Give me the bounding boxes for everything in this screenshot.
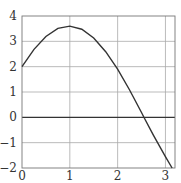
- grid: [22, 16, 175, 168]
- y-tick-label: −2: [0, 161, 17, 175]
- x-tick-labels: 0123: [18, 169, 169, 183]
- y-tick-label: 2: [9, 60, 17, 74]
- y-tick-label: 3: [9, 34, 17, 48]
- x-tick-label: 3: [162, 169, 170, 183]
- x-tick-label: 0: [18, 169, 26, 183]
- line-chart: 0123 43210−1−2: [0, 0, 181, 183]
- x-tick-label: 1: [66, 169, 74, 183]
- data-series-line: [22, 26, 172, 168]
- y-tick-label: 4: [9, 9, 17, 23]
- y-tick-label: 0: [9, 110, 17, 124]
- y-tick-label: −1: [0, 136, 17, 150]
- y-tick-labels: 43210−1−2: [0, 9, 17, 175]
- x-tick-label: 2: [114, 169, 122, 183]
- y-tick-label: 1: [9, 85, 17, 99]
